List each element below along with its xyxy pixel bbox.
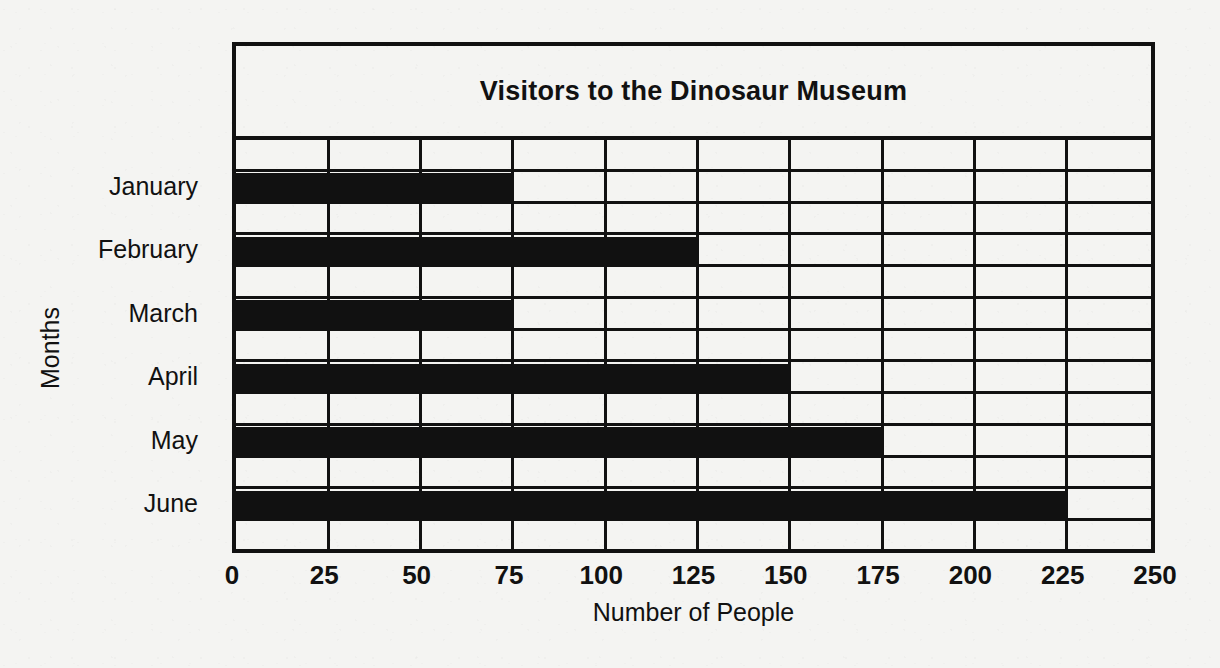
chart-title-band: Visitors to the Dinosaur Museum	[236, 46, 1151, 140]
y-axis-title: Months	[36, 307, 65, 389]
chart-title: Visitors to the Dinosaur Museum	[480, 76, 907, 107]
grid-row	[236, 394, 1151, 426]
bar-may	[236, 427, 882, 456]
vertical-gridline	[696, 140, 699, 549]
x-tick-label-0: 0	[225, 560, 239, 591]
chart-frame: Visitors to the Dinosaur Museum	[232, 42, 1155, 553]
category-label-june: June	[0, 491, 214, 516]
vertical-gridline	[973, 140, 976, 549]
plot-area	[236, 140, 1151, 549]
bar-january	[236, 173, 513, 202]
x-tick-label-50: 50	[402, 560, 431, 591]
bar-april	[236, 364, 790, 393]
x-tick-label-150: 150	[764, 560, 807, 591]
vertical-gridline	[881, 140, 884, 549]
x-tick-label-175: 175	[856, 560, 899, 591]
x-tick-label-250: 250	[1133, 560, 1176, 591]
x-tick-label-125: 125	[672, 560, 715, 591]
vertical-gridline	[604, 140, 607, 549]
category-label-march: March	[0, 301, 214, 326]
bar-february	[236, 237, 698, 266]
grid-row	[236, 204, 1151, 236]
grid-row	[236, 331, 1151, 363]
vertical-gridline	[1065, 140, 1068, 549]
category-label-january: January	[0, 174, 214, 199]
bar-chart-figure: Visitors to the Dinosaur Museum JanuaryF…	[0, 0, 1220, 668]
x-tick-label-25: 25	[310, 560, 339, 591]
x-tick-label-200: 200	[949, 560, 992, 591]
x-tick-label-75: 75	[494, 560, 523, 591]
x-tick-label-100: 100	[579, 560, 622, 591]
bar-march	[236, 300, 513, 329]
category-label-february: February	[0, 237, 214, 262]
bar-june	[236, 491, 1067, 520]
x-axis-tick-labels: 0255075100125150175200225250	[0, 560, 1220, 594]
category-label-april: April	[0, 364, 214, 389]
x-tick-label-225: 225	[1041, 560, 1084, 591]
grid-row	[236, 521, 1151, 553]
x-axis-title: Number of People	[232, 598, 1155, 627]
grid-row	[236, 140, 1151, 172]
vertical-gridline	[788, 140, 791, 549]
grid-row	[236, 458, 1151, 490]
grid-row	[236, 267, 1151, 299]
category-label-may: May	[0, 428, 214, 453]
